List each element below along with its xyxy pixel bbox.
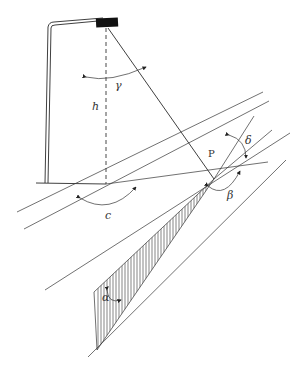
label-c: c (105, 209, 111, 222)
label-delta: δ (245, 134, 252, 147)
label-h: h (92, 100, 99, 113)
c-arc (80, 187, 136, 205)
diagram-canvas: γ h P δ β c α (0, 0, 299, 372)
ground-line (36, 183, 106, 184)
lamp-pole (45, 17, 118, 183)
light-ray (108, 28, 214, 179)
label-gamma: γ (115, 79, 122, 92)
label-p: P (208, 148, 215, 159)
delta-ray-1 (214, 116, 254, 179)
base-to-p-line (106, 162, 268, 184)
lamp-head-icon (96, 17, 118, 27)
lamp-geometry-diagram: γ h P δ β c α (0, 0, 299, 372)
label-alpha: α (102, 291, 110, 304)
delta-ray-2 (214, 130, 272, 179)
road-lines (17, 92, 290, 357)
label-beta: β (226, 189, 233, 202)
